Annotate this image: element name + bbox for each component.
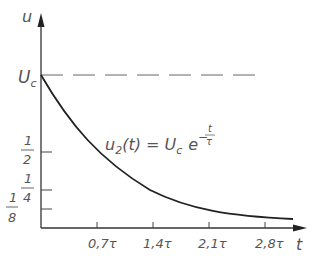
svg-text:1: 1 xyxy=(9,190,17,205)
formula-exp-numerator: t xyxy=(208,123,213,134)
formula: u2(t) = Uce− xyxy=(105,130,208,157)
y-label-half: 1 2 xyxy=(21,133,34,167)
x-tick-label: 1,4τ xyxy=(143,236,172,251)
y-label-eighth: 1 8 xyxy=(6,190,18,225)
x-tick-label: 2,8τ xyxy=(255,236,284,251)
formula-exp-denominator: τ xyxy=(206,136,213,147)
x-tick-label: 2,1τ xyxy=(198,236,227,251)
x-axis-arrow-icon xyxy=(293,225,307,232)
y-axis-label: u xyxy=(22,7,32,26)
svg-text:1: 1 xyxy=(24,133,32,148)
y-axis-arrow-icon xyxy=(38,13,45,27)
x-axis-label: t xyxy=(296,235,303,254)
svg-text:4: 4 xyxy=(23,190,31,205)
uc-label: Uc xyxy=(18,67,37,90)
x-tick-label: 0,7τ xyxy=(88,236,117,251)
svg-text:8: 8 xyxy=(8,210,16,225)
y-label-quarter: 1 4 xyxy=(21,171,34,205)
decay-diagram: u t Uc 1 2 1 4 1 8 0,7τ 1,4τ 2,1τ 2,8τ u… xyxy=(0,0,316,263)
svg-text:2: 2 xyxy=(23,152,31,167)
svg-text:1: 1 xyxy=(24,171,32,186)
